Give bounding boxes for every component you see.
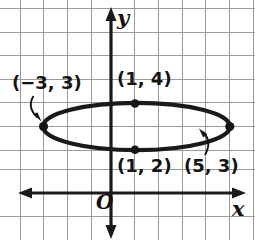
y-axis-arrow-down bbox=[106, 225, 117, 239]
point-top-covertex bbox=[131, 99, 140, 108]
graph-figure: (−3, 3) (1, 4) (1, 2) (5, 3) y x O bbox=[0, 0, 255, 240]
point-right-vertex bbox=[225, 122, 234, 131]
point-bottom-covertex bbox=[131, 146, 140, 155]
origin-label: O bbox=[96, 192, 113, 212]
y-axis-label: y bbox=[117, 7, 129, 28]
coordinate-plane-svg bbox=[0, 0, 255, 240]
point-left-vertex bbox=[39, 122, 48, 131]
grid-lines bbox=[0, 0, 255, 240]
y-axis-arrow-up bbox=[106, 7, 117, 21]
label-right-vertex: (5, 3) bbox=[184, 157, 239, 175]
x-axis-label: x bbox=[232, 198, 245, 219]
label-top-covertex: (1, 4) bbox=[117, 70, 172, 88]
label-bottom-covertex: (1, 2) bbox=[117, 157, 172, 175]
axis-arrowheads bbox=[18, 7, 246, 239]
label-left-vertex: (−3, 3) bbox=[12, 74, 82, 92]
